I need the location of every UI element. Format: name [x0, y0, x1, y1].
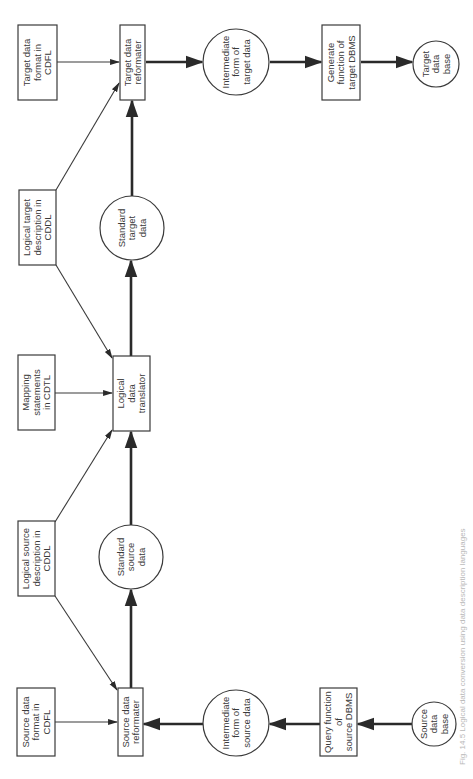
mapping-label-line: statements: [31, 369, 42, 416]
translator-label-line: Logical: [115, 378, 126, 408]
target-format-label-line: Target data: [21, 38, 32, 86]
node-target-reformatter: Target datareformater: [120, 25, 145, 100]
standard-target-label-line: target: [126, 215, 137, 240]
source-db-label-line: Source: [418, 709, 429, 739]
generate-function-label-line: Generate: [325, 43, 336, 83]
logical-target-label-line: CDDL: [42, 215, 53, 241]
mapping-label-line: Mapping: [20, 374, 31, 410]
target-reformatter-label-line: Target data: [122, 38, 133, 86]
standard-source-label-line: Standard: [115, 538, 126, 577]
standard-target-label-line: data: [137, 218, 148, 237]
data-conversion-diagram: Source dataformat inCDFLLogical sourcede…: [0, 0, 473, 779]
node-source-format: Source dataformat inCDFL: [17, 688, 55, 756]
target-db-label-line: Target: [420, 50, 431, 77]
node-logical-target: Logical targetdescription inCDDL: [19, 190, 56, 265]
standard-source-label-line: data: [136, 547, 147, 566]
source-format-label-line: CDFL: [41, 710, 52, 735]
node-translator: Logicaldatatranslator: [113, 356, 150, 431]
edges-layer: [55, 62, 412, 724]
target-reformatter-label-line: reformater: [132, 41, 143, 85]
query-function-label-line: source DBMS: [343, 693, 354, 752]
node-logical-source: Logical sourcedescription inCDDL: [18, 521, 55, 596]
node-intermediate-target: Intermediateform oftarget data: [203, 29, 269, 95]
node-intermediate-source: Intermediateform ofsource data: [203, 690, 269, 756]
source-format-label-line: format in: [30, 704, 41, 741]
query-function-label-line: Query function: [322, 691, 333, 753]
source-reformatter-label-line: Source data: [120, 696, 131, 748]
source-db-label-line: base: [439, 714, 450, 735]
nodes-layer: Source dataformat inCDFLLogical sourcede…: [17, 25, 459, 756]
intermediate-target-label-line: form of: [230, 47, 241, 77]
arrow-logical-target-to-translator: [56, 265, 112, 358]
target-format-label-line: CDFL: [42, 50, 53, 75]
node-generate-function: Generatefunction oftarget DBMS: [322, 25, 360, 100]
intermediate-source-label-line: source data: [241, 697, 252, 747]
source-format-label-line: Source data: [20, 696, 31, 748]
intermediate-source-label-line: Intermediate: [220, 697, 231, 750]
figure-caption: Fig. 14.5 Logical data conversion using …: [458, 528, 467, 765]
logical-source-label-line: CDDL: [41, 546, 52, 572]
standard-source-label-line: source: [125, 543, 136, 572]
node-standard-target: Standardtargetdata: [100, 196, 164, 260]
standard-target-label-line: Standard: [116, 209, 127, 248]
logical-source-label-line: description in: [31, 531, 42, 587]
node-target-format: Target dataformat inCDFL: [18, 25, 57, 100]
intermediate-target-label-line: target data: [241, 39, 252, 85]
translator-label-line: data: [126, 384, 137, 403]
arrow-logical-source-to-source-reformatter: [55, 596, 117, 690]
mapping-label-line: in CDTL: [41, 375, 52, 410]
translator-label-line: translator: [136, 374, 147, 414]
target-format-label-line: format in: [32, 44, 43, 81]
query-function-label-line: of: [333, 718, 344, 726]
node-source-db: Sourcedatabase: [412, 702, 456, 746]
node-source-reformatter: Source datareformater: [118, 688, 143, 756]
generate-function-label-line: target DBMS: [346, 35, 357, 89]
logical-source-label-line: Logical source: [20, 528, 31, 589]
arrow-logical-target-to-target-reformatter: [56, 83, 119, 190]
source-db-label-line: data: [428, 714, 439, 733]
intermediate-source-label-line: form of: [230, 708, 241, 738]
intermediate-target-label-line: Intermediate: [220, 36, 231, 89]
target-db-label-line: data: [430, 54, 441, 73]
source-reformatter-label-line: reformater: [130, 700, 141, 744]
arrow-logical-source-to-translator: [55, 430, 112, 522]
node-target-db: Targetdatabase: [413, 41, 459, 87]
logical-target-label-line: description in: [32, 200, 43, 256]
generate-function-label-line: function of: [335, 40, 346, 84]
node-mapping: Mappingstatementsin CDTL: [18, 355, 55, 430]
node-standard-source: Standardsourcedata: [99, 525, 163, 589]
target-db-label-line: base: [441, 54, 452, 75]
node-query-function: Query functionofsource DBMS: [320, 688, 357, 756]
logical-target-label-line: Logical target: [21, 199, 32, 256]
